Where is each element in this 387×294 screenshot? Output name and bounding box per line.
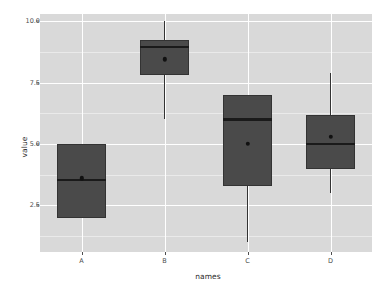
whisker-upper bbox=[330, 73, 331, 115]
x-tick-mark bbox=[248, 252, 249, 255]
median-line-b bbox=[140, 46, 188, 48]
gridline-major-horizontal bbox=[40, 83, 372, 84]
y-tick-label: 7.5 bbox=[6, 79, 40, 87]
whisker-lower bbox=[247, 186, 248, 242]
gridline-major-horizontal bbox=[40, 21, 372, 22]
whisker-lower bbox=[330, 169, 331, 194]
whisker-upper bbox=[164, 21, 165, 39]
x-axis-title: names bbox=[44, 272, 372, 281]
x-tick-mark bbox=[82, 252, 83, 255]
y-tick-label: 10.0 bbox=[6, 17, 40, 25]
median-line-c bbox=[223, 118, 271, 120]
box-a bbox=[57, 144, 105, 218]
gridline-minor-horizontal bbox=[40, 52, 372, 53]
median-line-d bbox=[306, 143, 354, 145]
y-tick-mark bbox=[36, 82, 39, 83]
box-d bbox=[306, 115, 354, 169]
x-tick-label-b: B bbox=[150, 257, 180, 265]
x-tick-mark bbox=[331, 252, 332, 255]
x-tick-label-d: D bbox=[316, 257, 346, 265]
y-tick-mark bbox=[36, 205, 39, 206]
x-tick-label-a: A bbox=[67, 257, 97, 265]
boxplot-figure: value 2.55.07.510.0 names ABCD bbox=[0, 0, 387, 294]
plot-panel bbox=[40, 14, 372, 252]
box-c bbox=[223, 95, 271, 186]
whisker-lower bbox=[164, 75, 165, 119]
x-tick-label-c: C bbox=[233, 257, 263, 265]
y-axis: 2.55.07.510.0 bbox=[0, 0, 40, 294]
y-tick-label: 5.0 bbox=[6, 140, 40, 148]
x-axis-title-label: names bbox=[195, 272, 221, 281]
y-tick-mark bbox=[36, 21, 39, 22]
x-tick-mark bbox=[165, 252, 166, 255]
gridline-minor-horizontal bbox=[40, 236, 372, 237]
y-tick-mark bbox=[36, 144, 39, 145]
y-tick-label: 2.5 bbox=[6, 201, 40, 209]
